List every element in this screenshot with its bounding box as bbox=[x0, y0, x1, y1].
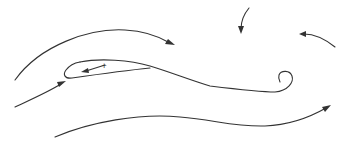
arrowhead-icon bbox=[238, 26, 244, 34]
top-arc-streamline bbox=[15, 30, 175, 80]
airfoil-loop bbox=[64, 60, 292, 92]
origin-marker: + bbox=[102, 61, 107, 71]
top-right-arrow bbox=[299, 31, 335, 47]
flow-diagram: + bbox=[0, 0, 348, 145]
bottom-streamline bbox=[55, 105, 331, 137]
lower-left-arrow bbox=[15, 81, 66, 107]
arrowhead-icon bbox=[165, 39, 175, 45]
arrowhead-icon bbox=[81, 68, 89, 73]
top-center-arrow bbox=[238, 8, 249, 34]
arrowhead-icon bbox=[322, 105, 331, 112]
inner-arrow: + bbox=[81, 61, 107, 73]
arrowhead-icon bbox=[299, 31, 306, 37]
